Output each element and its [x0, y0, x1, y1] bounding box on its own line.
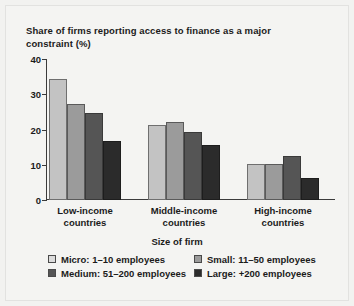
legend: Micro: 1–10 employeesSmall: 11–50 employ…	[48, 252, 314, 280]
category-label-1: Low-incomecountries	[35, 205, 135, 229]
category-label-line: Middle-income	[134, 205, 234, 217]
category-label-2: Middle-incomecountries	[134, 205, 234, 229]
y-tick-label: 30	[30, 89, 41, 100]
bar-medium-group-3	[283, 156, 301, 200]
bar-small-group-2	[166, 122, 184, 200]
category-label-line: countries	[134, 217, 234, 229]
legend-swatch-micro-icon	[48, 255, 56, 263]
legend-item-medium[interactable]: Medium: 51–200 employees	[48, 268, 194, 279]
bar-small-group-3	[265, 164, 283, 200]
legend-label-large: Large: +200 employees	[207, 268, 312, 279]
legend-title: Size of firm	[0, 236, 354, 247]
y-tick-label: 10	[30, 159, 41, 170]
legend-item-micro[interactable]: Micro: 1–10 employees	[48, 254, 194, 265]
legend-label-medium: Medium: 51–200 employees	[61, 268, 186, 279]
legend-label-micro: Micro: 1–10 employees	[61, 254, 165, 265]
y-tick-label: 40	[30, 54, 41, 65]
y-tick-mark	[42, 165, 47, 166]
bar-group-1	[49, 59, 121, 200]
bar-medium-group-1	[85, 113, 103, 200]
legend-swatch-medium-icon	[48, 269, 56, 277]
bar-large-group-2	[202, 145, 220, 200]
category-label-3: High-incomecountries	[233, 205, 333, 229]
category-label-line: countries	[35, 217, 135, 229]
legend-item-small[interactable]: Small: 11–50 employees	[194, 254, 314, 265]
y-tick-mark	[42, 94, 47, 95]
category-label-line: Low-income	[35, 205, 135, 217]
legend-item-large[interactable]: Large: +200 employees	[194, 268, 314, 279]
legend-row-2: Medium: 51–200 employeesLarge: +200 empl…	[48, 266, 314, 280]
plot-area: 010203040 Low-incomecountriesMiddle-inco…	[47, 59, 335, 200]
y-tick-mark	[42, 200, 47, 201]
bar-medium-group-2	[184, 132, 202, 200]
bar-small-group-1	[67, 104, 85, 200]
legend-row-1: Micro: 1–10 employeesSmall: 11–50 employ…	[48, 252, 314, 266]
y-tick-mark	[42, 59, 47, 60]
y-tick-label: 20	[30, 124, 41, 135]
bar-micro-group-1	[49, 79, 67, 200]
chart-title: Share of firms reporting access to finan…	[26, 24, 276, 50]
bar-large-group-1	[103, 141, 121, 200]
category-label-line: countries	[233, 217, 333, 229]
legend-swatch-small-icon	[194, 255, 202, 263]
bar-micro-group-3	[247, 164, 265, 200]
bar-group-3	[247, 59, 319, 200]
chart-figure: Share of firms reporting access to finan…	[0, 0, 354, 306]
bar-group-2	[148, 59, 220, 200]
bar-large-group-3	[301, 178, 319, 200]
category-label-line: High-income	[233, 205, 333, 217]
y-tick-label: 0	[36, 195, 41, 206]
legend-label-small: Small: 11–50 employees	[207, 254, 316, 265]
y-tick-mark	[42, 130, 47, 131]
legend-swatch-large-icon	[194, 269, 202, 277]
bar-micro-group-2	[148, 125, 166, 200]
